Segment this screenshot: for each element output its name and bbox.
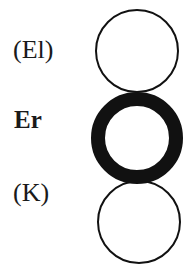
circle-k — [98, 181, 180, 263]
circle-er — [98, 99, 176, 177]
circles-diagram — [0, 0, 195, 276]
circle-el — [96, 10, 178, 92]
